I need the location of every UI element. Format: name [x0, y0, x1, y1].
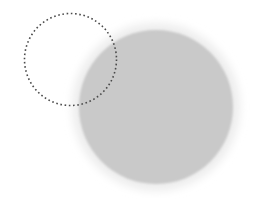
gray-filled-circle	[79, 30, 233, 184]
image-canvas	[0, 0, 253, 199]
shape-canvas-svg	[0, 0, 253, 199]
